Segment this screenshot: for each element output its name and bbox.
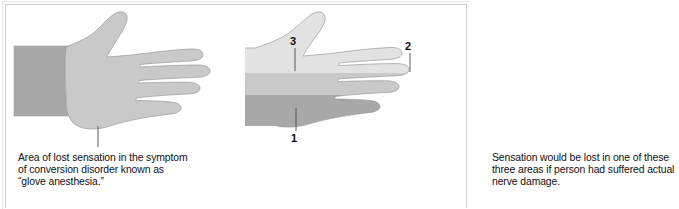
glove-anesthesia-panel: Area of lost sensation in the symptom of…: [0, 0, 245, 200]
nerve-zone-1-band: [245, 95, 490, 150]
nerve-zone-3-label: 3: [290, 36, 296, 47]
glove-anesthesia-illustration: [0, 0, 245, 150]
nerve-zone-2-label: 2: [405, 41, 411, 52]
nerve-damage-caption: Sensation would be lost in one of these …: [492, 152, 679, 189]
nerve-zone-2-band: [245, 73, 490, 95]
glove-anesthesia-caption: Area of lost sensation in the symptom of…: [18, 152, 240, 189]
nerve-zone-3-band: [245, 0, 490, 73]
forearm-region: [14, 46, 72, 116]
glove-region: [65, 12, 210, 129]
nerve-damage-panel: Sensation would be lost in one of these …: [245, 0, 490, 200]
nerve-damage-illustration: [245, 0, 490, 150]
nerve-zone-1-label: 1: [291, 133, 297, 144]
